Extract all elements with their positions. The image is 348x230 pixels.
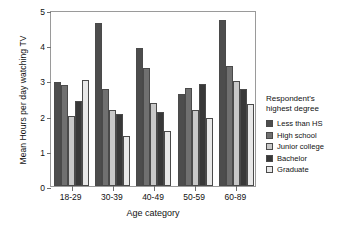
bar-group bbox=[216, 12, 257, 186]
bar bbox=[123, 136, 130, 186]
bar bbox=[157, 112, 164, 186]
bar-group-bars bbox=[51, 12, 92, 186]
legend-item: Less than HS bbox=[266, 118, 348, 130]
bar bbox=[199, 84, 206, 186]
legend-item: Graduate bbox=[266, 164, 348, 176]
bar-group bbox=[175, 12, 216, 186]
bar bbox=[136, 48, 143, 186]
legend-swatch-icon bbox=[266, 155, 273, 162]
bar bbox=[150, 103, 157, 186]
bar bbox=[219, 20, 226, 186]
plot-inner: 012345 bbox=[51, 12, 255, 186]
x-axis-tick-label: 50-59 bbox=[183, 192, 205, 202]
bar bbox=[82, 80, 89, 186]
bar bbox=[185, 88, 192, 186]
bar bbox=[247, 104, 254, 186]
legend: Respondent's highest degree Less than HS… bbox=[266, 94, 348, 176]
bar bbox=[61, 85, 68, 186]
bar bbox=[75, 101, 82, 186]
bar-group bbox=[133, 12, 174, 186]
legend-item-label: Less than HS bbox=[277, 119, 323, 128]
bar bbox=[68, 116, 75, 186]
bar-group-bars bbox=[133, 12, 174, 186]
legend-swatch-icon bbox=[266, 166, 273, 173]
bar bbox=[233, 81, 240, 186]
bar-group-bars bbox=[175, 12, 216, 186]
legend-swatch-icon bbox=[266, 132, 273, 139]
legend-title-line1: Respondent's bbox=[266, 94, 348, 104]
legend-item: Junior college bbox=[266, 141, 348, 153]
bar bbox=[95, 23, 102, 186]
y-axis-tick-label: 2 bbox=[25, 113, 45, 123]
x-axis-tick-label: 60-89 bbox=[225, 192, 247, 202]
legend-item: High school bbox=[266, 130, 348, 142]
x-axis-tick-mark bbox=[72, 186, 73, 191]
bar-group bbox=[92, 12, 133, 186]
y-axis-tick-label: 1 bbox=[25, 148, 45, 158]
legend-item-label: Graduate bbox=[277, 165, 309, 174]
x-axis-tick-label: 40-49 bbox=[142, 192, 164, 202]
bar bbox=[109, 110, 116, 186]
x-axis-tick-label: 18-29 bbox=[60, 192, 82, 202]
x-axis-tick-mark bbox=[195, 186, 196, 191]
legend-swatch-icon bbox=[266, 143, 273, 150]
bar bbox=[206, 118, 213, 186]
x-axis-tick-mark bbox=[113, 186, 114, 191]
bar-group-bars bbox=[92, 12, 133, 186]
bar bbox=[102, 89, 109, 186]
y-axis-tick-label: 0 bbox=[25, 183, 45, 193]
legend-item-label: High school bbox=[277, 131, 317, 140]
y-axis-tick-label: 4 bbox=[25, 42, 45, 52]
x-axis-title: Age category bbox=[50, 208, 256, 218]
legend-item: Bachelor bbox=[266, 153, 348, 165]
y-axis-tick-label: 3 bbox=[25, 77, 45, 87]
x-axis-tick-mark bbox=[154, 186, 155, 191]
bar-chart-figure: Mean Hours per day watching TV 012345 Ag… bbox=[0, 0, 348, 230]
y-axis-tick-label: 5 bbox=[25, 7, 45, 17]
bar bbox=[116, 114, 123, 186]
bar bbox=[240, 89, 247, 186]
legend-title: Respondent's highest degree bbox=[266, 94, 348, 114]
y-axis-title: Mean Hours per day watching TV bbox=[18, 15, 28, 185]
x-axis-tick-label: 30-39 bbox=[101, 192, 123, 202]
plot-area: 012345 bbox=[50, 11, 256, 187]
legend-rows: Less than HSHigh schoolJunior collegeBac… bbox=[266, 118, 348, 176]
bar bbox=[178, 94, 185, 186]
bar-group bbox=[51, 12, 92, 186]
legend-item-label: Junior college bbox=[277, 142, 324, 151]
bar bbox=[54, 82, 61, 186]
legend-item-label: Bachelor bbox=[277, 154, 307, 163]
bar bbox=[192, 110, 199, 186]
bar bbox=[226, 66, 233, 186]
bar bbox=[143, 68, 150, 186]
x-axis-tick-mark bbox=[236, 186, 237, 191]
bar-group-bars bbox=[216, 12, 257, 186]
legend-title-line2: highest degree bbox=[266, 104, 348, 114]
legend-swatch-icon bbox=[266, 120, 273, 127]
bar bbox=[164, 131, 171, 186]
y-axis-tick-mark bbox=[47, 188, 51, 189]
